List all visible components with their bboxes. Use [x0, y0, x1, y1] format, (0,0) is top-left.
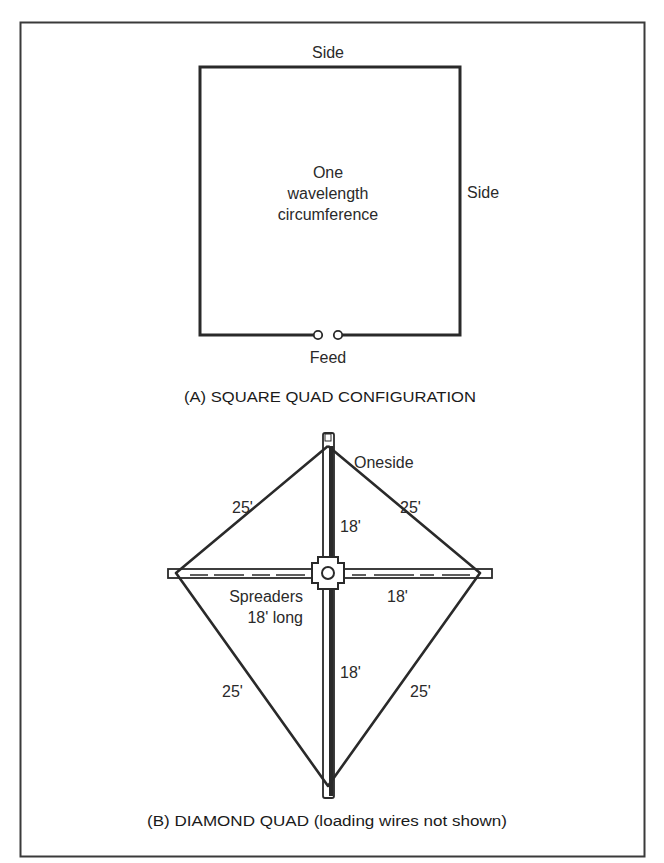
label-feed: Feed: [310, 349, 346, 366]
label-upper-right-side: 25': [400, 499, 421, 516]
label-spreaders-line1: Spreaders: [229, 588, 303, 605]
caption-diamond-quad: (B) DIAMOND QUAD (loading wires not show…: [147, 812, 507, 829]
label-upper-mast: 18': [340, 518, 361, 535]
label-lower-mast: 18': [340, 664, 361, 681]
hub-bolt: [322, 567, 334, 579]
feed-terminal-left: [314, 331, 322, 339]
label-spreaders-line2: 18' long: [247, 609, 303, 626]
label-right-side: Side: [467, 184, 499, 201]
mast-shading: [329, 446, 334, 796]
label-top-side: Side: [312, 44, 344, 61]
label-right-spreader: 18': [387, 588, 408, 605]
label-lower-right-side: 25': [410, 683, 431, 700]
mast-top-cap: [325, 434, 331, 441]
feed-terminal-right: [334, 331, 342, 339]
label-oneside: Oneside: [354, 454, 414, 471]
label-center-line3: circumference: [278, 206, 379, 223]
label-center-line1: One: [313, 164, 343, 181]
square-quad: Side Side One wavelength circumference F…: [184, 44, 499, 405]
diagram-canvas: Side Side One wavelength circumference F…: [0, 0, 664, 863]
label-lower-left-side: 25': [222, 683, 243, 700]
diamond-quad: Oneside 25' 25' 18' 18' Spreaders 18' lo…: [147, 433, 507, 829]
caption-square-quad: (A) SQUARE QUAD CONFIGURATION: [184, 388, 476, 405]
label-upper-left-side: 25': [232, 499, 253, 516]
label-center-line2: wavelength: [287, 185, 369, 202]
